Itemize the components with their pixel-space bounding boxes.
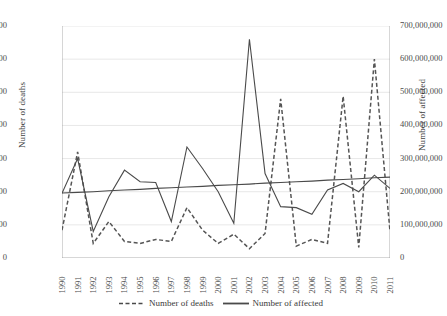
y-tick-right-6: 600,000,000 bbox=[400, 54, 447, 63]
x-tick-2007: 2007 bbox=[323, 276, 332, 293]
y-tick-left-1: 50,000 bbox=[0, 220, 7, 229]
x-tick-1991: 1991 bbox=[73, 276, 82, 293]
x-tick-1999: 1999 bbox=[198, 276, 207, 293]
legend-item-1[interactable]: Number of affected bbox=[223, 298, 323, 308]
x-tick-2008: 2008 bbox=[339, 276, 348, 293]
x-tick-2001: 2001 bbox=[229, 276, 238, 293]
y-axis-left-ticks: 050,000100,000150,000200,000250,000300,0… bbox=[0, 0, 59, 316]
series-line-0 bbox=[62, 59, 390, 249]
x-tick-1992: 1992 bbox=[89, 276, 98, 293]
x-tick-1998: 1998 bbox=[182, 276, 191, 293]
y-tick-left-4: 200,000 bbox=[0, 120, 7, 129]
x-tick-1990: 1990 bbox=[58, 276, 67, 293]
y-tick-right-1: 100,000,000 bbox=[400, 220, 447, 229]
series-line-2 bbox=[62, 177, 390, 193]
x-tick-2002: 2002 bbox=[245, 276, 254, 293]
legend-swatch-dashed-icon bbox=[119, 300, 145, 307]
y-tick-right-4: 400,000,000 bbox=[400, 120, 447, 129]
legend-label-1: Number of affected bbox=[253, 298, 323, 308]
legend-item-0[interactable]: Number of deaths bbox=[119, 298, 213, 308]
y-tick-left-2: 100,000 bbox=[0, 187, 7, 196]
y-tick-left-5: 250,000 bbox=[0, 87, 7, 96]
x-tick-1997: 1997 bbox=[167, 276, 176, 293]
x-tick-2003: 2003 bbox=[261, 276, 270, 293]
y-tick-right-7: 700,000,000 bbox=[400, 21, 447, 30]
chart-legend: Number of deathsNumber of affected bbox=[0, 294, 442, 312]
plot-svg bbox=[62, 26, 390, 258]
plot-area bbox=[62, 26, 390, 258]
y-tick-left-0: 0 bbox=[0, 253, 7, 262]
x-tick-2005: 2005 bbox=[292, 276, 301, 293]
y-axis-right-ticks: 0100,000,000200,000,000300,000,000400,00… bbox=[391, 0, 442, 316]
y-tick-left-7: 350,000 bbox=[0, 21, 7, 30]
series-line-1 bbox=[62, 39, 390, 231]
y-tick-left-6: 300,000 bbox=[0, 54, 7, 63]
x-tick-1994: 1994 bbox=[120, 276, 129, 293]
x-tick-2011: 2011 bbox=[386, 276, 395, 293]
x-axis-ticks: 1990199119921993199419951996199719981999… bbox=[62, 259, 390, 293]
x-tick-1995: 1995 bbox=[136, 276, 145, 293]
y-tick-right-2: 200,000,000 bbox=[400, 187, 447, 196]
legend-swatch-solid-icon bbox=[223, 300, 249, 307]
x-tick-2009: 2009 bbox=[354, 276, 363, 293]
x-tick-2004: 2004 bbox=[276, 276, 285, 293]
legend-label-0: Number of deaths bbox=[149, 298, 213, 308]
y-tick-right-0: 0 bbox=[400, 253, 447, 262]
x-tick-2006: 2006 bbox=[307, 276, 316, 293]
x-tick-1993: 1993 bbox=[104, 276, 113, 293]
x-tick-1996: 1996 bbox=[151, 276, 160, 293]
y-tick-left-3: 150,000 bbox=[0, 154, 7, 163]
x-tick-2000: 2000 bbox=[214, 276, 223, 293]
x-tick-2010: 2010 bbox=[370, 276, 379, 293]
y-tick-right-5: 500,000,000 bbox=[400, 87, 447, 96]
y-tick-right-3: 300,000,000 bbox=[400, 154, 447, 163]
